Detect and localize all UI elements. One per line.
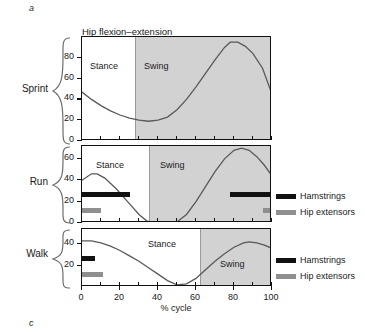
x-minor-tick <box>195 218 196 222</box>
y-tick-mark <box>77 98 82 99</box>
panel-letter-c: c <box>29 318 34 328</box>
x-minor-tick <box>233 218 234 222</box>
hip-extensors-swatch-icon <box>276 274 296 279</box>
emg-bar-hamstrings <box>230 192 271 197</box>
x-minor-tick <box>100 218 101 222</box>
x-minor-tick <box>176 218 177 222</box>
x-tick-label: 60 <box>180 292 210 302</box>
x-minor-tick <box>157 218 158 222</box>
y-tick-label: 20 <box>41 113 74 123</box>
x-minor-tick <box>138 136 139 140</box>
panel-walk: Stance Swing <box>81 228 271 286</box>
figure-container: a c Hip flexion–extension Sprint Run Wal… <box>0 0 365 332</box>
x-tick-label: 80 <box>218 292 248 302</box>
swing-label-walk: Swing <box>220 259 245 269</box>
y-tick-mark <box>77 222 82 223</box>
plot-area-walk: Stance Swing <box>81 228 271 286</box>
x-tick-label: 20 <box>104 292 134 302</box>
x-minor-tick <box>271 282 272 286</box>
x-tick-label: 0 <box>66 292 96 302</box>
legend-item-hip-extensors-run: Hip extensors <box>276 207 355 217</box>
legend-label-hip-extensors-walk: Hip extensors <box>300 271 355 281</box>
hip-angle-curve-walk <box>82 229 271 286</box>
x-minor-tick <box>252 136 253 140</box>
panel-run: Stance Swing <box>81 145 271 222</box>
x-minor-tick <box>233 136 234 140</box>
swing-label-sprint: Swing <box>144 61 169 71</box>
x-tick-mark <box>81 286 82 290</box>
x-minor-tick <box>214 136 215 140</box>
plot-area-sprint: Stance Swing <box>81 36 271 140</box>
x-minor-tick <box>119 282 120 286</box>
legend-item-hamstrings-run: Hamstrings <box>276 191 346 201</box>
x-tick-mark <box>271 286 272 290</box>
x-minor-tick <box>195 136 196 140</box>
x-minor-tick <box>157 282 158 286</box>
y-tick-mark <box>77 78 82 79</box>
x-tick-mark <box>157 286 158 290</box>
y-tick-label: 60 <box>41 72 74 82</box>
emg-bar-hamstrings <box>82 192 130 197</box>
panel-letter-a: a <box>29 3 34 13</box>
y-tick-label: 0 <box>41 216 74 226</box>
x-minor-tick <box>214 282 215 286</box>
legend-label-hamstrings-run: Hamstrings <box>300 191 346 201</box>
y-tick-label: 60 <box>41 152 74 162</box>
y-tick-mark <box>77 265 82 266</box>
y-tick-mark <box>77 201 82 202</box>
x-minor-tick <box>100 136 101 140</box>
x-minor-tick <box>214 218 215 222</box>
y-tick-label: 40 <box>41 173 74 183</box>
stance-label-walk: Stance <box>148 239 176 249</box>
x-minor-tick <box>233 282 234 286</box>
y-tick-mark <box>77 179 82 180</box>
y-tick-label: 20 <box>41 195 74 205</box>
hamstrings-swatch-icon <box>276 194 296 199</box>
x-minor-tick <box>252 218 253 222</box>
x-minor-tick <box>119 218 120 222</box>
x-minor-tick <box>176 282 177 286</box>
x-minor-tick <box>176 136 177 140</box>
x-minor-tick <box>252 282 253 286</box>
y-tick-mark <box>77 243 82 244</box>
y-tick-label: 80 <box>41 51 74 61</box>
y-tick-label: 40 <box>41 92 74 102</box>
y-tick-label: 20 <box>41 259 74 269</box>
swing-label-run: Swing <box>160 160 185 170</box>
x-tick-label: 40 <box>142 292 172 302</box>
x-minor-tick <box>138 282 139 286</box>
y-tick-label: 0 <box>41 134 74 144</box>
x-tick-mark <box>233 286 234 290</box>
x-minor-tick <box>271 136 272 140</box>
x-minor-tick <box>81 136 82 140</box>
legend-item-hamstrings-walk: Hamstrings <box>276 255 346 265</box>
legend-label-hip-extensors-run: Hip extensors <box>300 207 355 217</box>
y-tick-mark <box>77 158 82 159</box>
x-minor-tick <box>138 218 139 222</box>
y-tick-mark <box>77 57 82 58</box>
x-tick-label: 100 <box>256 292 286 302</box>
stance-label-run: Stance <box>96 160 124 170</box>
x-tick-mark <box>119 286 120 290</box>
legend-item-hip-extensors-walk: Hip extensors <box>276 271 355 281</box>
emg-bar-hip-extensors <box>263 208 272 213</box>
emg-bar-hip-extensors <box>82 272 103 277</box>
x-minor-tick <box>271 218 272 222</box>
y-tick-label: 40 <box>41 237 74 247</box>
hamstrings-swatch-icon <box>276 258 296 263</box>
legend-label-hamstrings-walk: Hamstrings <box>300 255 346 265</box>
hip-angle-curve-sprint <box>82 37 271 140</box>
x-axis-title: % cycle <box>121 303 231 313</box>
x-minor-tick <box>81 282 82 286</box>
plot-area-run: Stance Swing <box>81 145 271 222</box>
hip-extensors-swatch-icon <box>276 210 296 215</box>
condition-label-walk: Walk <box>4 248 48 259</box>
x-tick-mark <box>195 286 196 290</box>
x-minor-tick <box>119 136 120 140</box>
hip-angle-curve-run <box>82 146 271 222</box>
emg-bar-hip-extensors <box>82 208 101 213</box>
x-minor-tick <box>100 282 101 286</box>
x-minor-tick <box>195 282 196 286</box>
emg-bar-hamstrings <box>82 256 95 261</box>
stance-label-sprint: Stance <box>90 61 118 71</box>
